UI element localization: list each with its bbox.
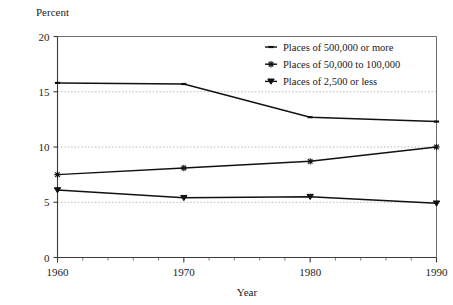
x-axis-title: Year (237, 286, 258, 298)
x-tick-label-1990: 1990 (426, 266, 449, 278)
chart-canvas: Percent 05101520 1960197019801990 Places… (0, 0, 453, 305)
data-point-1-1 (181, 165, 187, 171)
legend-label-1: Places of 50,000 to 100,000 (283, 59, 400, 70)
legend-item-1: Places of 50,000 to 100,000 (265, 59, 400, 70)
legend-marker-1 (268, 61, 274, 67)
line-chart: Percent 05101520 1960197019801990 Places… (0, 0, 453, 305)
legend-item-0: Places of 500,000 or more (265, 42, 394, 53)
legend-label-2: Places of 2,500 or less (283, 76, 377, 87)
y-tick-label-10: 10 (39, 141, 51, 153)
x-tick-label-1960: 1960 (47, 266, 70, 278)
y-tick-label-20: 20 (39, 31, 51, 43)
y-tick-label-15: 15 (39, 86, 51, 98)
y-axis-title: Percent (36, 6, 69, 18)
y-tick-label-5: 5 (44, 196, 50, 208)
data-point-1-3 (433, 144, 439, 150)
x-tick-label-1970: 1970 (173, 266, 196, 278)
x-tick-label-1980: 1980 (299, 266, 322, 278)
legend-label-0: Places of 500,000 or more (283, 42, 394, 53)
data-point-1-2 (307, 158, 313, 164)
y-tick-label-0: 0 (44, 252, 50, 264)
data-point-1-0 (54, 171, 60, 177)
